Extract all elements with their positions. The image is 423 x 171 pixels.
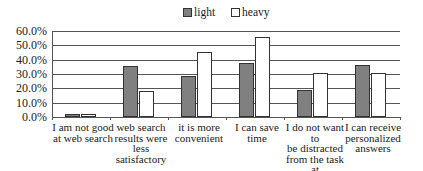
gridline (52, 103, 400, 104)
chart-legend: light heavy (183, 6, 270, 18)
x-tick (342, 117, 343, 120)
gridline (52, 31, 400, 32)
y-tick-label: 60.0% (0, 25, 47, 37)
y-tick-label: 40.0% (0, 54, 47, 66)
x-tick-label: I can savetime (225, 122, 289, 143)
x-tick (400, 117, 401, 120)
x-tick-label: I do not want tobe distractedfrom the ta… (283, 122, 347, 171)
bar-light (239, 63, 254, 117)
bar-light (123, 66, 138, 117)
x-tick (168, 117, 169, 120)
legend-swatch-heavy (231, 8, 240, 17)
bar-heavy (313, 73, 328, 117)
x-tick (110, 117, 111, 120)
legend-item-light: light (183, 6, 215, 18)
bar-heavy (371, 73, 386, 117)
bar-heavy (255, 37, 270, 117)
legend-item-heavy: heavy (231, 6, 269, 18)
x-tick-label: web searchresults were lesssatisfactory (109, 122, 173, 164)
legend-label-heavy: heavy (242, 6, 269, 18)
plot-area (52, 31, 400, 117)
y-tick-label: 10.0% (0, 97, 47, 109)
x-tick-label: I am not goodat web search (51, 122, 115, 143)
x-tick (52, 117, 53, 120)
x-tick-label: it is moreconvenient (167, 122, 231, 143)
legend-swatch-light (183, 8, 192, 17)
bar-light (181, 76, 196, 117)
gridline (52, 60, 400, 61)
y-tick-label: 0.0% (0, 111, 47, 123)
y-axis-line (52, 31, 53, 118)
y-tick-label: 30.0% (0, 68, 47, 80)
y-tick-label: 20.0% (0, 82, 47, 94)
x-tick (226, 117, 227, 120)
bar-light (297, 90, 312, 117)
bar-heavy (139, 91, 154, 117)
bar-heavy (197, 52, 212, 117)
gridline (52, 88, 400, 89)
gridline (52, 45, 400, 46)
gridline (52, 74, 400, 75)
legend-label-light: light (194, 6, 215, 18)
bar-light (355, 65, 370, 117)
x-tick-label: I can receivepersonalizedanswers (341, 122, 405, 154)
y-tick-label: 50.0% (0, 39, 47, 51)
x-tick (284, 117, 285, 120)
